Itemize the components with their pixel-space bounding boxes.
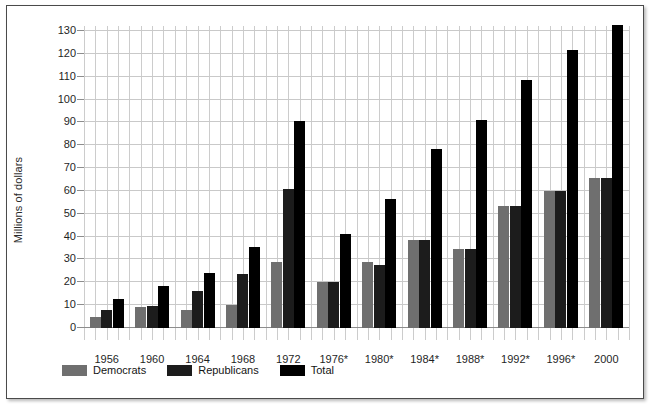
bar-republicans-1972 [283, 189, 294, 328]
bar-democrats-1976 [317, 282, 328, 328]
y-tick-label: 90 [64, 115, 76, 127]
y-tick-mark [77, 236, 84, 237]
bar-total-1992 [521, 80, 532, 328]
legend-item-democrats[interactable]: Democrats [62, 364, 146, 376]
bar-republicans-2000 [601, 178, 612, 328]
plot-area: 0102030405060708090100110120130 19561960… [84, 26, 629, 334]
y-tick-mark [77, 99, 84, 100]
bar-democrats-1960 [135, 307, 146, 328]
x-tick-label-1992: 1992* [493, 353, 538, 365]
bar-total-1972 [294, 121, 305, 328]
legend-item-republicans[interactable]: Republicans [167, 364, 259, 376]
y-tick-label: 40 [64, 230, 76, 242]
y-tick-label: 60 [64, 184, 76, 196]
y-tick-label: 10 [64, 298, 76, 310]
legend-swatch-rep-icon [167, 365, 192, 376]
bar-group-1972 [266, 31, 311, 328]
bar-republicans-1992 [510, 206, 521, 328]
legend-label: Republicans [198, 364, 259, 376]
bar-democrats-1984 [408, 240, 419, 328]
bar-democrats-1964 [181, 310, 192, 328]
y-tick-mark [77, 304, 84, 305]
legend-label: Democrats [93, 364, 146, 376]
y-tick-label: 110 [58, 70, 76, 82]
bar-democrats-1972 [271, 262, 282, 328]
y-tick-label: 130 [58, 24, 76, 36]
bar-total-1964 [204, 273, 215, 328]
bar-republicans-1984 [419, 240, 430, 328]
bar-total-1968 [249, 247, 260, 328]
bar-chart: Millions of dollars 01020304050607080901… [0, 0, 652, 409]
x-tick-label-1988: 1988* [447, 353, 492, 365]
bar-republicans-1956 [101, 310, 112, 328]
bar-democrats-1992 [498, 206, 509, 328]
y-tick-mark [77, 30, 84, 31]
bar-group-1960 [129, 31, 174, 328]
x-tick-label-1984: 1984* [402, 353, 447, 365]
bar-democrats-1988 [453, 249, 464, 328]
x-tick-label-1996: 1996* [538, 353, 583, 365]
y-tick-mark [77, 281, 84, 282]
bar-total-1984 [431, 149, 442, 328]
gridline-x-boundary [629, 26, 630, 340]
y-tick-label: 0 [70, 321, 76, 333]
y-tick-label: 70 [64, 161, 76, 173]
y-tick-mark [77, 327, 84, 328]
bar-group-1992 [493, 31, 538, 328]
chart-screenshot: Millions of dollars 01020304050607080901… [0, 0, 652, 409]
bar-total-1996 [567, 50, 578, 328]
bar-democrats-1996 [544, 191, 555, 328]
x-tick-label-2000: 2000 [584, 353, 629, 365]
bar-republicans-1964 [192, 291, 203, 328]
bar-group-1964 [175, 31, 220, 328]
y-tick-mark [77, 190, 84, 191]
legend-item-total[interactable]: Total [280, 364, 334, 376]
bar-total-1980 [385, 199, 396, 328]
bar-republicans-1980 [374, 265, 385, 328]
bar-democrats-1968 [226, 305, 237, 328]
bar-republicans-1988 [465, 249, 476, 328]
bar-group-1956 [84, 31, 129, 328]
y-tick-label: 50 [64, 207, 76, 219]
legend-swatch-total-icon [280, 365, 305, 376]
y-axis-title: Millions of dollars [12, 130, 24, 270]
y-tick-label: 120 [58, 47, 76, 59]
legend-label: Total [311, 364, 334, 376]
bar-total-2000 [612, 25, 623, 328]
y-tick-label: 20 [64, 275, 76, 287]
bar-democrats-2000 [589, 178, 600, 328]
bar-group-1968 [220, 31, 265, 328]
y-tick-mark [77, 213, 84, 214]
bar-group-1976 [311, 31, 356, 328]
y-tick-mark [77, 258, 84, 259]
y-tick-label: 100 [58, 93, 76, 105]
bar-democrats-1980 [362, 262, 373, 328]
bar-group-1996 [538, 31, 583, 328]
chart-legend: DemocratsRepublicansTotal [62, 364, 355, 376]
y-tick-mark [77, 53, 84, 54]
bar-group-1980 [357, 31, 402, 328]
bar-republicans-1996 [555, 191, 566, 328]
legend-swatch-dem-icon [62, 365, 87, 376]
bar-total-1988 [476, 120, 487, 328]
y-tick-mark [77, 144, 84, 145]
bar-total-1960 [158, 286, 169, 328]
bar-total-1956 [113, 299, 124, 328]
plot-inner: 0102030405060708090100110120130 19561960… [84, 31, 629, 328]
x-tick-label-1980: 1980* [357, 353, 402, 365]
bar-total-1976 [340, 234, 351, 328]
bar-republicans-1960 [147, 306, 158, 328]
y-tick-mark [77, 167, 84, 168]
y-tick-label: 80 [64, 138, 76, 150]
y-tick-mark [77, 121, 84, 122]
bar-group-1984 [402, 31, 447, 328]
y-tick-mark [77, 76, 84, 77]
bar-group-1988 [447, 31, 492, 328]
bar-groups [84, 31, 629, 328]
y-tick-label: 30 [64, 252, 76, 264]
bar-democrats-1956 [90, 317, 101, 328]
bar-group-2000 [584, 31, 629, 328]
bar-republicans-1976 [328, 282, 339, 328]
bar-republicans-1968 [237, 274, 248, 328]
